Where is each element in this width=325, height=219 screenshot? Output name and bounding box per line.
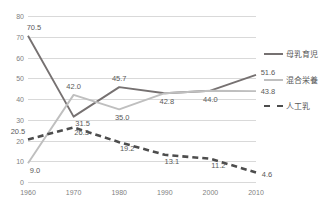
x-axis-tick: 1990 [157, 189, 173, 196]
data-label: 70.5 [27, 24, 42, 32]
line-chart: 01020304050607080 1960197019801990200020… [0, 0, 325, 219]
legend-item-mixed[interactable]: 混合栄養 [264, 70, 325, 90]
series-line-1 [28, 91, 256, 164]
y-axis-tick: 80 [16, 13, 24, 20]
legend-label-1: 混合栄養 [286, 76, 318, 85]
x-axis-tick: 1970 [66, 189, 82, 196]
data-label: 4.6 [262, 171, 272, 179]
data-label: 44.0 [203, 96, 218, 104]
data-label: 26.3 [74, 129, 89, 137]
data-label: 42.8 [159, 98, 174, 106]
y-axis-tick: 40 [16, 96, 24, 103]
data-label: 35.0 [115, 114, 130, 122]
data-label: 11.2 [211, 162, 225, 170]
y-axis-tick: 70 [16, 33, 24, 40]
y-axis-tick: 0 [20, 179, 24, 186]
legend-swatch-solid-dark [264, 50, 283, 59]
legend: 母乳育児 混合栄養 人工乳 [264, 44, 325, 122]
legend-item-boniku[interactable]: 母乳育児 [264, 44, 325, 64]
y-axis-tick: 50 [16, 75, 24, 82]
legend-label-2: 人工乳 [286, 102, 310, 111]
data-label: 19.2 [120, 145, 135, 153]
y-axis-tick: 30 [16, 116, 24, 123]
series-line-0 [28, 36, 256, 117]
y-axis-tick: 20 [16, 137, 24, 144]
plot-area: 01020304050607080 1960197019801990200020… [28, 16, 256, 182]
series-lines [28, 16, 256, 182]
x-axis-tick: 1960 [20, 189, 36, 196]
y-axis-tick: 60 [16, 54, 24, 61]
data-label: 13.1 [164, 158, 179, 166]
x-axis-tick: 1980 [111, 189, 127, 196]
legend-swatch-dashed-dark [264, 102, 283, 111]
data-label: 42.0 [66, 83, 81, 91]
x-axis-tick: 2010 [248, 189, 264, 196]
data-label: 20.5 [11, 128, 26, 136]
data-label: 31.5 [75, 120, 90, 128]
legend-swatch-solid-light [264, 76, 283, 85]
y-axis-tick: 10 [16, 158, 24, 165]
data-label: 9.0 [30, 167, 40, 175]
legend-label-0: 母乳育児 [286, 50, 318, 59]
x-axis-tick: 2000 [203, 189, 219, 196]
gridline [28, 182, 256, 183]
data-label: 45.7 [112, 75, 127, 83]
legend-item-formula[interactable]: 人工乳 [264, 96, 325, 116]
